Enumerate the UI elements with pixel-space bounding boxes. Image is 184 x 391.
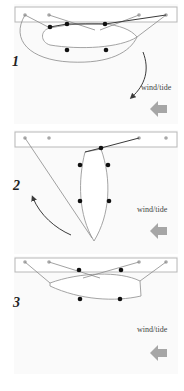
- panel-3: 3 wind/tide: [12, 256, 178, 374]
- fender-icon: [78, 199, 83, 204]
- panel-2: 2 wind/tide: [12, 130, 178, 254]
- fender-icon: [104, 48, 109, 53]
- step-number: 1: [12, 54, 19, 69]
- wind-label: wind/tide: [137, 205, 168, 214]
- fender-icon: [99, 146, 104, 151]
- fender-icon: [65, 48, 70, 53]
- fender-icon: [48, 25, 53, 30]
- cleat-icon: [47, 136, 51, 140]
- fender-icon: [103, 22, 108, 27]
- fender-icon: [65, 22, 70, 27]
- fender-icon: [78, 163, 83, 168]
- fender-icon: [78, 297, 83, 302]
- mooring-diagram: 1 wind/tide 2 wind/tide: [0, 0, 184, 391]
- fender-icon: [77, 268, 82, 273]
- fender-icon: [106, 163, 111, 168]
- wind-label: wind/tide: [137, 325, 168, 334]
- fender-icon: [107, 199, 112, 204]
- pontoon: [15, 132, 177, 147]
- step-number: 2: [12, 178, 20, 193]
- wind-label: wind/tide: [141, 83, 172, 92]
- pontoon: [15, 7, 177, 22]
- fender-icon: [119, 268, 124, 273]
- fender-icon: [118, 297, 123, 302]
- pontoon: [15, 258, 177, 272]
- cleat-icon: [164, 136, 168, 140]
- step-number: 3: [12, 295, 20, 310]
- panel-1: 1 wind/tide: [12, 4, 178, 124]
